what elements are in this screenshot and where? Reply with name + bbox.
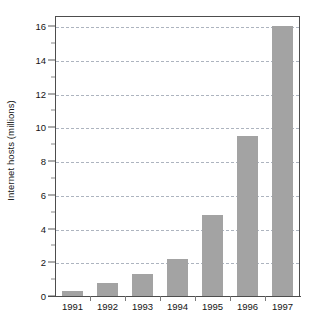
y-tick-major xyxy=(48,228,55,229)
bar xyxy=(272,26,294,296)
y-tick-major xyxy=(48,194,55,195)
y-tick-label: 8 xyxy=(41,156,46,167)
y-tick-major xyxy=(48,93,55,94)
bar-chart-figure: Internet hosts (millions) 0246810121416 … xyxy=(0,0,309,318)
bar xyxy=(237,136,259,296)
y-tick-major xyxy=(48,161,55,162)
x-tick-label: 1993 xyxy=(132,301,153,312)
bar xyxy=(97,283,119,296)
y-tick-label: 12 xyxy=(35,88,46,99)
y-tick-major xyxy=(48,59,55,60)
x-tick-label: 1996 xyxy=(237,301,258,312)
y-tick-major xyxy=(48,127,55,128)
y-axis-tick-labels: 0246810121416 xyxy=(22,0,46,318)
x-tick-label: 1991 xyxy=(62,301,83,312)
y-axis-title-text: Internet hosts (millions) xyxy=(5,100,16,201)
x-tick-label: 1997 xyxy=(272,301,293,312)
y-tick-label: 2 xyxy=(41,257,46,268)
x-tick-label: 1994 xyxy=(167,301,188,312)
bar-series xyxy=(55,16,300,296)
x-axis-tick-labels: 1991199219931994199519961997 xyxy=(55,301,300,318)
y-tick-label: 4 xyxy=(41,223,46,234)
y-tick-label: 6 xyxy=(41,189,46,200)
y-tick-major xyxy=(48,26,55,27)
bar xyxy=(132,274,154,296)
x-tick-label: 1992 xyxy=(97,301,118,312)
y-tick-label: 16 xyxy=(35,21,46,32)
y-tick-major xyxy=(48,262,55,263)
y-axis-title: Internet hosts (millions) xyxy=(0,0,20,300)
bar xyxy=(167,259,189,296)
x-tick-label: 1995 xyxy=(202,301,223,312)
y-tick-label: 14 xyxy=(35,54,46,65)
y-tick-label: 10 xyxy=(35,122,46,133)
bar xyxy=(202,215,224,296)
y-tick-label: 0 xyxy=(41,291,46,302)
